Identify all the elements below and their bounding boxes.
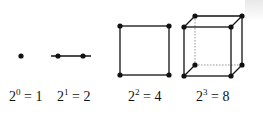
cube-figure	[181, 13, 244, 78]
label-cube: 23 = 8	[196, 89, 229, 105]
label-point: 20 = 1	[9, 89, 42, 105]
point-figure	[18, 53, 23, 58]
label-segment: 21 = 2	[57, 89, 90, 105]
segment-figure	[51, 53, 91, 58]
square-figure	[117, 23, 171, 77]
label-square: 22 = 4	[128, 89, 161, 105]
